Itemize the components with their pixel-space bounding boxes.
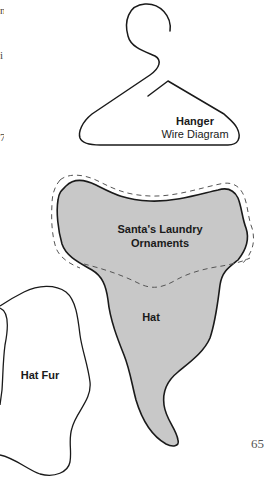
pattern-page: n i 7, Hanger Wire Diagram Santa's Laund… <box>0 0 264 485</box>
hat-fur-title: Hat Fur <box>10 369 70 382</box>
ornament-title-line2: Ornaments <box>100 237 220 250</box>
page-number: 65 <box>251 436 264 452</box>
ornament-title-line1: Santa's Laundry <box>100 223 220 236</box>
hanger-title: Hanger <box>155 115 235 128</box>
hat-title: Hat <box>126 311 176 324</box>
hanger-subtitle: Wire Diagram <box>145 128 245 141</box>
